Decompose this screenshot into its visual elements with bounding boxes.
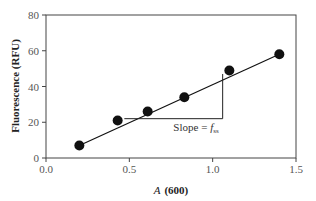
data-point (179, 92, 189, 102)
slope-subscript: ss (213, 127, 219, 135)
slope-triangle (124, 74, 222, 119)
y-axis-title: Fluorescence (RFU) (9, 39, 22, 133)
fluorescence-vs-absorbance-chart: 020406080 0.00.51.01.5 Slope = fss A(600… (0, 0, 316, 201)
x-tick-label: 1.0 (206, 163, 220, 175)
data-point (113, 115, 123, 125)
y-tick-label: 60 (28, 45, 40, 57)
x-axis-title-unit: (600) (164, 184, 188, 197)
slope-prefix: Slope = (173, 121, 210, 133)
y-tick-label: 20 (28, 116, 40, 128)
data-point (224, 65, 234, 75)
x-tick-label: 1.5 (289, 163, 303, 175)
x-tick-label: 0.5 (122, 163, 136, 175)
x-axis-title-var: A (153, 184, 161, 196)
x-axis-ticks: 0.00.51.01.5 (39, 158, 303, 175)
x-axis-title: A(600) (153, 184, 189, 197)
slope-annotation: Slope = fss (173, 121, 219, 135)
plot-frame (46, 15, 296, 158)
y-axis-ticks: 020406080 (28, 9, 46, 164)
data-point (74, 140, 84, 150)
data-point (274, 49, 284, 59)
y-tick-label: 40 (28, 81, 40, 93)
data-point (143, 107, 153, 117)
x-tick-label: 0.0 (39, 163, 53, 175)
y-tick-label: 80 (28, 9, 40, 21)
